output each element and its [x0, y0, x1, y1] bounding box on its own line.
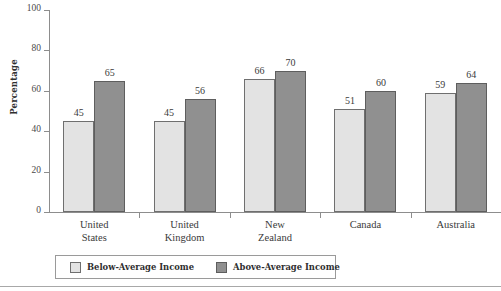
y-axis-tick — [44, 50, 49, 51]
bar-value-label: 64 — [450, 69, 493, 80]
bar — [244, 79, 275, 212]
y-axis-tick-label-text: 20 — [1, 165, 41, 175]
legend-label: Below-Average Income — [87, 262, 194, 272]
legend-swatch-icon — [216, 262, 227, 273]
x-axis-tick — [411, 213, 412, 218]
category-label-line: United — [170, 219, 199, 230]
bar-value-label: 45 — [148, 107, 191, 118]
bar-chart: Percentage 020406080100 4565455666705160… — [0, 0, 501, 291]
x-axis-category-label: Australia — [411, 219, 501, 232]
bar — [154, 121, 185, 212]
legend-item-below-average-income: Below-Average Income — [70, 256, 194, 278]
y-axis-tick-label-text: 100 — [1, 3, 41, 13]
plot-area: 020406080100 45654556667051605964 — [49, 10, 501, 213]
legend-label: Above-Average Income — [233, 262, 340, 272]
x-axis-category-label: NewZealand — [230, 219, 320, 244]
y-axis-tick-label: 0 — [1, 205, 41, 217]
legend-item-above-average-income: Above-Average Income — [216, 256, 340, 278]
category-label-line: New — [265, 219, 285, 230]
category-label-line: Zealand — [230, 232, 320, 245]
bar — [94, 81, 125, 212]
x-axis-tick — [230, 213, 231, 218]
bar-value-label: 59 — [419, 79, 462, 90]
bar-value-label: 60 — [359, 77, 402, 88]
legend-swatch-icon — [70, 262, 81, 273]
bar — [456, 83, 487, 212]
bar — [425, 93, 456, 212]
y-axis-tick — [44, 10, 49, 11]
y-axis-tick-label: 80 — [1, 43, 41, 55]
bar — [275, 71, 306, 212]
y-axis-tick — [44, 172, 49, 173]
y-axis-line — [49, 10, 50, 213]
bar-value-label: 65 — [88, 67, 131, 78]
y-axis-tick-label-text: 0 — [1, 205, 41, 215]
y-axis-tick-label-text: 80 — [1, 43, 41, 53]
category-label-line: Australia — [437, 219, 476, 230]
footer-divider — [0, 286, 501, 287]
bar — [365, 91, 396, 212]
y-axis-tick-label-text: 40 — [1, 124, 41, 134]
bar-value-label: 70 — [269, 57, 312, 68]
x-axis-category-label: Canada — [320, 219, 410, 232]
x-axis-category-label: UnitedKingdom — [139, 219, 229, 244]
category-label-line: States — [49, 232, 139, 245]
bar-value-label: 51 — [328, 95, 371, 106]
x-axis-category-label: UnitedStates — [49, 219, 139, 244]
y-axis-tick-label-text: 60 — [1, 84, 41, 94]
bar — [334, 109, 365, 212]
bar-value-label: 56 — [179, 85, 222, 96]
bar — [63, 121, 94, 212]
category-label-line: Kingdom — [139, 232, 229, 245]
y-axis-tick — [44, 212, 49, 213]
x-axis-tick — [139, 213, 140, 218]
category-label-line: Canada — [350, 219, 382, 230]
category-label-line: United — [80, 219, 109, 230]
y-axis-tick-label: 60 — [1, 84, 41, 96]
y-axis-tick — [44, 91, 49, 92]
x-axis-tick — [320, 213, 321, 218]
y-axis-tick-label: 40 — [1, 124, 41, 136]
y-axis-tick-label: 100 — [1, 3, 41, 15]
x-axis-line — [49, 212, 501, 213]
y-axis-tick-label: 20 — [1, 165, 41, 177]
chart-legend: Below-Average Income Above-Average Incom… — [55, 255, 336, 279]
bar-value-label: 45 — [57, 107, 100, 118]
y-axis-tick — [44, 131, 49, 132]
